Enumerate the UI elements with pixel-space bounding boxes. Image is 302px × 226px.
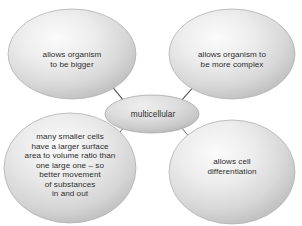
diagram-canvas-svg xyxy=(0,0,302,226)
concept-map-diagram: allows organism to be bigger allows orga… xyxy=(0,0,302,226)
center-node-shape[interactable] xyxy=(105,95,199,133)
node-top-left-shape[interactable] xyxy=(8,9,136,99)
node-bottom-right-shape[interactable] xyxy=(169,120,295,224)
node-top-right-shape[interactable] xyxy=(169,9,295,99)
node-bottom-left-shape[interactable] xyxy=(4,113,136,223)
